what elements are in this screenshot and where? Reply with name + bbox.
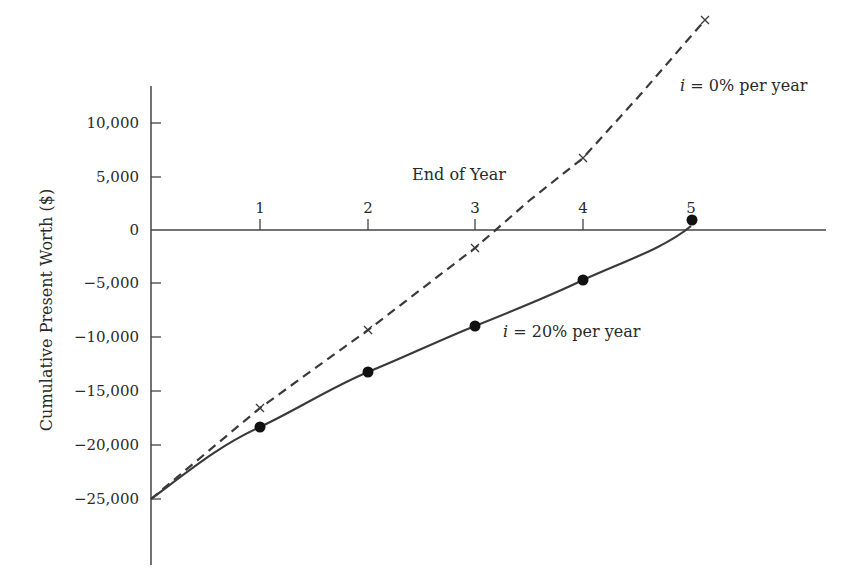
dot-marker-icon (470, 321, 481, 332)
x-marker-icon (364, 326, 372, 334)
x-tick-label: 5 (686, 199, 696, 217)
x-marker-icon (471, 244, 479, 252)
y-tick-label: 0 (129, 221, 139, 239)
x-marker-icon (256, 404, 264, 412)
x-marker-icon (701, 16, 709, 24)
x-tick-label: 3 (470, 199, 480, 217)
y-tick-label: −5,000 (83, 274, 139, 292)
x-ticks (260, 219, 583, 230)
x-axis-title: End of Year (412, 165, 506, 184)
x-tick-labels: 1 2 3 4 5 (255, 199, 696, 217)
y-tick-labels: 10,000 5,000 0 −5,000 −10,000 −15,000 −2… (74, 114, 139, 508)
y-tick-label: −10,000 (74, 328, 139, 346)
y-tick-label: 10,000 (87, 114, 140, 132)
y-tick-label: −20,000 (74, 436, 139, 454)
dot-marker-icon (578, 275, 589, 286)
dot-marker-icon (255, 422, 266, 433)
series-line-i20 (151, 226, 691, 499)
y-tick-label: −15,000 (74, 382, 139, 400)
x-tick-label: 4 (578, 199, 588, 217)
annotation-i0-text: = 0% per year (685, 76, 808, 95)
annotation-i20-text: = 20% per year (508, 322, 641, 341)
dot-marker-icon (687, 215, 698, 226)
dot-marker-icon (363, 367, 374, 378)
annotation-i20: i = 20% per year (503, 322, 641, 341)
y-tick-label: −25,000 (74, 490, 139, 508)
series-line-i0 (151, 20, 705, 499)
chart-canvas: 10,000 5,000 0 −5,000 −10,000 −15,000 −2… (0, 0, 855, 573)
x-tick-label: 1 (255, 199, 265, 217)
annotation-i0: i = 0% per year (680, 76, 808, 95)
x-marker-icon (579, 154, 587, 162)
x-tick-label: 2 (363, 199, 373, 217)
y-axis-title: Cumulative Present Worth ($) (37, 189, 56, 431)
y-ticks (151, 123, 161, 499)
y-tick-label: 5,000 (96, 168, 139, 186)
series-markers-i0 (256, 16, 709, 412)
